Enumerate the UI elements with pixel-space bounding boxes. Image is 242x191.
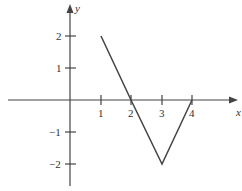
graph: x y 1 2 3 4 2 1 −1 −2 [0,0,242,191]
y-tick-neg2: −2 [49,158,61,170]
x-tick-2: 2 [128,107,134,119]
y-tick-2: 2 [56,30,62,42]
y-axis-label: y [74,2,80,14]
x-tick-4: 4 [189,107,195,119]
x-tick-1: 1 [98,107,104,119]
y-axis-arrow-icon [67,4,74,13]
y-tick-1: 1 [56,62,62,74]
y-tick-neg1: −1 [49,126,61,138]
x-tick-3: 3 [159,107,165,119]
x-axis-arrow-icon [229,97,238,104]
x-axis-label: x [235,106,241,118]
